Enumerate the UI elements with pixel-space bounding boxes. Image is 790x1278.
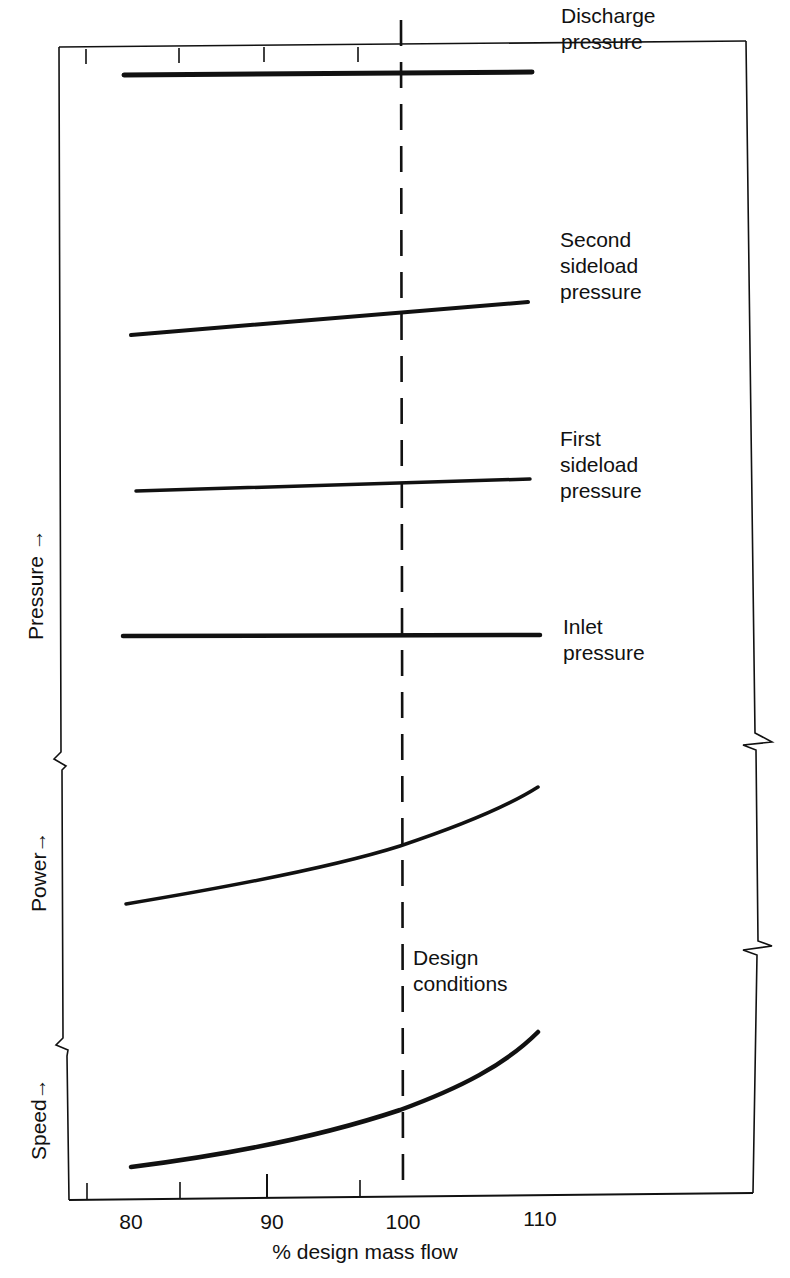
curve-inlet-pressure: [123, 635, 540, 636]
x-tick-label-80: 80: [119, 1210, 142, 1234]
curve-second-sideload-pressure: [131, 302, 528, 335]
left-axis-broken: [54, 47, 69, 1200]
x-tick-label-90: 90: [260, 1210, 283, 1234]
x-axis-title: % design mass flow: [272, 1240, 458, 1264]
label-design-conditions: Designconditions: [413, 945, 508, 997]
label-first-sideload-pressure: Firstsideloadpressure: [560, 426, 642, 504]
curve-discharge-pressure: [124, 72, 532, 75]
label-discharge-pressure: Dischargepressure: [561, 3, 656, 55]
chart-canvas: [0, 0, 790, 1278]
curve-first-sideload-pressure: [136, 479, 530, 491]
x-axis: [69, 1193, 753, 1200]
x-tick-label-100: 100: [385, 1210, 420, 1234]
y-label-pressure: Pressure →: [24, 529, 48, 640]
label-inlet-pressure: Inletpressure: [563, 614, 645, 666]
curve-speed: [131, 1032, 538, 1167]
curve-power: [126, 787, 538, 904]
right-axis-broken: [743, 41, 772, 1193]
y-label-speed: Speed→: [27, 1078, 51, 1160]
design-conditions-line: [401, 20, 403, 1190]
y-label-power: Power→: [27, 831, 51, 912]
x-tick-label-110: 110: [523, 1207, 556, 1231]
label-second-sideload-pressure: Secondsideloadpressure: [560, 227, 642, 305]
